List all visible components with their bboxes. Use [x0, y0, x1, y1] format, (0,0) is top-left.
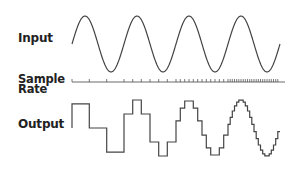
- sample-rate-ticks: [72, 79, 285, 82]
- input-sine-wave: [72, 16, 280, 72]
- waveform-diagram: [0, 0, 300, 174]
- output-stepped-wave: [72, 100, 280, 156]
